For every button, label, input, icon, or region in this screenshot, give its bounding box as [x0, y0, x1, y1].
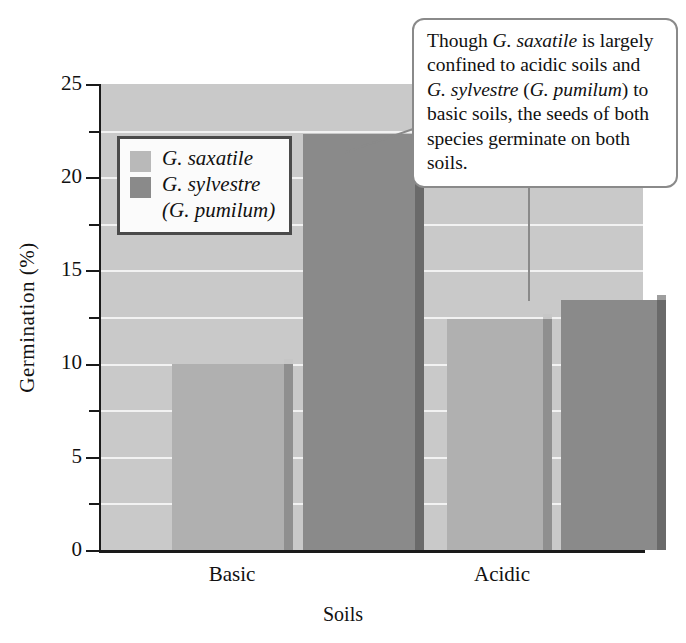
y-tick-label-10: 10 — [36, 352, 82, 373]
x-category-label-basic: Basic — [172, 562, 292, 587]
legend-label-g-pumilum: (G. pumilum) — [162, 199, 275, 223]
y-tick-major-25 — [86, 84, 99, 86]
y-tick-major-5 — [86, 457, 99, 459]
annotation-species-g-saxatile: G. saxatile — [493, 30, 577, 51]
y-axis-line — [99, 84, 101, 552]
y-tick-minor-17p5 — [89, 224, 99, 226]
y-tick-minor-22p5 — [89, 131, 99, 133]
legend[interactable]: G. saxatile G. sylvestre (G. pumilum) — [117, 136, 292, 235]
callout-leader-line-to-acidic-bar — [528, 178, 530, 301]
y-tick-major-10 — [86, 364, 99, 366]
y-tick-major-0 — [86, 550, 99, 552]
legend-item-g-saxatile[interactable]: G. saxatile — [130, 147, 275, 172]
bar-front-face — [172, 364, 284, 550]
x-axis-title: Soils — [0, 603, 686, 626]
x-axis-line — [99, 550, 645, 553]
annotation-species-g-sylvestre: G. sylvestre — [427, 79, 518, 100]
y-tick-label-5: 5 — [36, 446, 82, 467]
annotation-callout: Though G. saxatile is largely confined t… — [412, 18, 678, 188]
y-tick-major-20 — [86, 177, 99, 179]
legend-swatch-dark-gray-icon — [130, 177, 151, 198]
y-tick-minor-12p5 — [89, 317, 99, 319]
germination-bar-chart-figure: 25 20 15 10 5 0 G. saxatile G. sylvestre… — [0, 0, 686, 643]
annotation-text-1c: is — [577, 30, 595, 51]
y-tick-minor-7p5 — [89, 410, 99, 412]
bar-acidic-g-sylvestre[interactable] — [561, 300, 657, 550]
bar-side-face — [657, 300, 666, 550]
bar-acidic-g-saxatile[interactable] — [447, 319, 543, 550]
y-tick-label-20: 20 — [36, 166, 82, 187]
y-tick-major-15 — [86, 270, 99, 272]
legend-label-g-sylvestre: G. sylvestre — [162, 173, 260, 197]
annotation-species-g-pumilum: G. pumilum — [530, 79, 622, 100]
y-axis-title: Germination (%) — [15, 193, 40, 443]
y-tick-label-0: 0 — [36, 539, 82, 560]
bar-side-face — [284, 364, 293, 550]
y-tick-minor-2p5 — [89, 503, 99, 505]
annotation-text-3a: soils and — [572, 54, 641, 75]
bar-side-face — [415, 134, 424, 550]
legend-label-g-saxatile: G. saxatile — [162, 147, 253, 171]
y-tick-label-15: 15 — [36, 259, 82, 280]
legend-item-g-pumilum-sub: (G. pumilum) — [130, 199, 275, 223]
annotation-text-1a: Though — [427, 30, 493, 51]
legend-swatch-light-gray-icon — [130, 151, 151, 172]
bar-side-face — [543, 319, 552, 550]
bar-front-face — [561, 300, 657, 550]
x-category-label-acidic: Acidic — [442, 562, 562, 587]
y-tick-label-25: 25 — [36, 73, 82, 94]
bar-basic-g-saxatile[interactable] — [172, 364, 284, 550]
bar-front-face — [303, 134, 415, 550]
bar-front-face — [447, 319, 543, 550]
legend-item-g-sylvestre[interactable]: G. sylvestre — [130, 173, 275, 198]
bar-basic-g-sylvestre[interactable] — [303, 134, 415, 550]
